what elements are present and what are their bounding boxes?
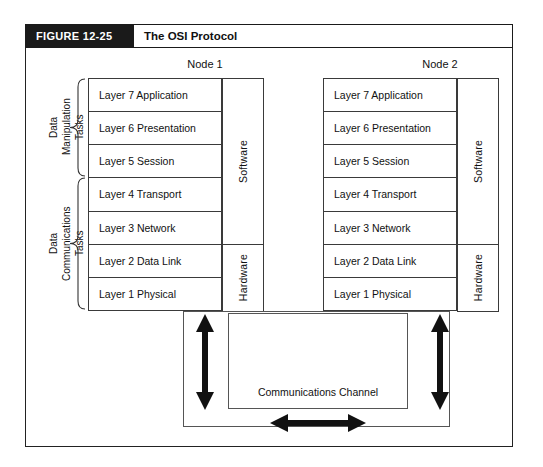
node-2-layer-7[interactable]: Layer 7 Application	[324, 79, 456, 112]
node-1-layer-2[interactable]: Layer 2 Data Link	[89, 245, 221, 278]
node-2-implementation-column: Software Hardware	[457, 78, 499, 312]
node-1-layer-5[interactable]: Layer 5 Session	[89, 145, 221, 178]
node-1-layer-3[interactable]: Layer 3 Network	[89, 212, 221, 245]
node-1-hardware-cell: Hardware	[223, 245, 263, 311]
node-1-layer-1[interactable]: Layer 1 Physical	[89, 278, 221, 311]
node-1-channel-arrow-icon	[192, 312, 218, 412]
channel-transmission-arrow-icon	[268, 410, 368, 436]
brace-data-communications-icon	[68, 177, 86, 310]
node-1-layer-6[interactable]: Layer 6 Presentation	[89, 112, 221, 145]
node-1-title: Node 1	[143, 58, 267, 70]
communications-channel-label: Communications Channel	[228, 386, 408, 398]
node-2-hardware-cell: Hardware	[458, 245, 498, 311]
node-2-software-label: Software	[472, 140, 484, 183]
node-1-layer-stack: Layer 7 Application Layer 6 Presentation…	[88, 78, 222, 311]
node-1-implementation-column: Software Hardware	[222, 78, 264, 312]
node-2-layer-6[interactable]: Layer 6 Presentation	[324, 112, 456, 145]
node-1-layer-7[interactable]: Layer 7 Application	[89, 79, 221, 112]
figure-header: FIGURE 12-25 The OSI Protocol	[25, 24, 513, 48]
figure-osi-protocol: FIGURE 12-25 The OSI Protocol Node 1 Nod…	[0, 0, 543, 467]
node-1-hardware-label: Hardware	[237, 254, 249, 301]
node-2-layer-2[interactable]: Layer 2 Data Link	[324, 245, 456, 278]
figure-title: The OSI Protocol	[134, 25, 512, 47]
node-2-title: Node 2	[378, 58, 502, 70]
node-2-layer-3[interactable]: Layer 3 Network	[324, 212, 456, 245]
node-2-channel-arrow-icon	[427, 312, 453, 412]
task-group-label-data-manipulation: Data Manipulation Tasks	[34, 78, 64, 176]
brace-data-manipulation-icon	[68, 78, 86, 177]
node-2-layer-4[interactable]: Layer 4 Transport	[324, 178, 456, 211]
node-1-layer-4[interactable]: Layer 4 Transport	[89, 178, 221, 211]
node-2-hardware-label: Hardware	[472, 254, 484, 301]
node-2-layer-1[interactable]: Layer 1 Physical	[324, 278, 456, 311]
node-1-software-cell: Software	[223, 79, 263, 245]
node-2-layer-stack: Layer 7 Application Layer 6 Presentation…	[323, 78, 457, 311]
figure-number: FIGURE 12-25	[26, 25, 134, 47]
node-1-software-label: Software	[237, 140, 249, 183]
node-2-layer-5[interactable]: Layer 5 Session	[324, 145, 456, 178]
task-group-label-data-communications: Data Communications Tasks	[34, 177, 64, 310]
node-2-software-cell: Software	[458, 79, 498, 245]
